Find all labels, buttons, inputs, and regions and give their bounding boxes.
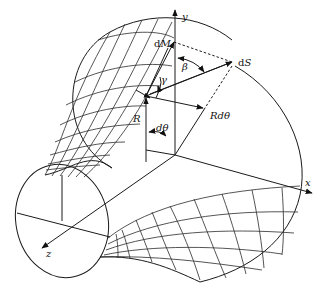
surface-diagram: y x z dM dS β γ R Rdθ dθ	[0, 0, 323, 291]
diagram-canvas: y x z dM dS β γ R Rdθ dθ	[0, 0, 323, 291]
y-axis-label: y	[181, 11, 188, 22]
surface-mesh-lower	[100, 186, 300, 280]
vectors	[136, 42, 232, 162]
x-axis	[175, 155, 312, 193]
z-axis-label: z	[45, 248, 52, 259]
surface-outline	[45, 18, 302, 282]
gamma-label: γ	[161, 74, 167, 85]
axes	[42, 10, 312, 248]
rdtheta-label: Rdθ	[209, 110, 230, 121]
beta-label: β	[181, 61, 188, 72]
x-axis-label: x	[305, 177, 311, 188]
end-cap	[5, 156, 119, 287]
dtheta-label: dθ	[156, 122, 168, 133]
dm-label: dM	[154, 38, 171, 49]
r-label: R	[132, 113, 141, 124]
labels: y x z dM dS β γ R Rdθ dθ	[45, 11, 311, 259]
dashed-ds-rdtheta	[205, 66, 232, 108]
ds-label: dS	[238, 57, 251, 68]
